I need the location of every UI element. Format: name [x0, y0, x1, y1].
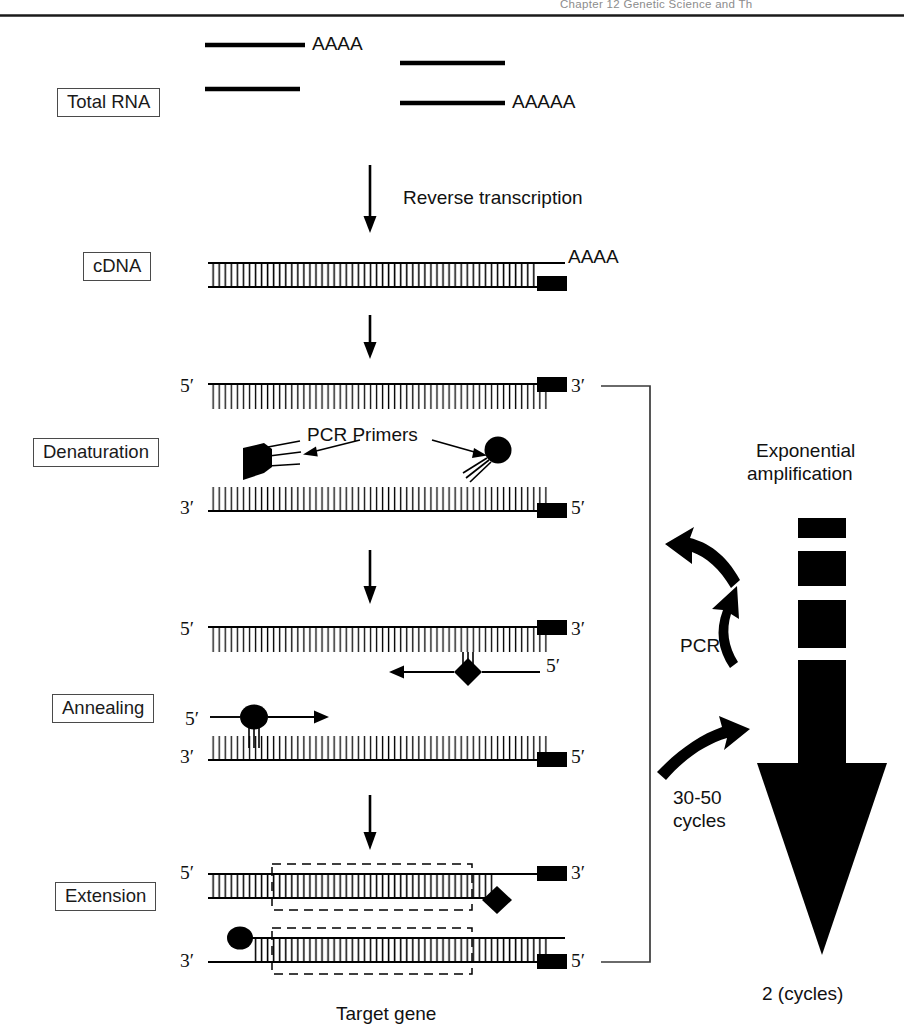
denaturation-bottom-block	[537, 503, 567, 518]
denaturation-top-block	[537, 377, 567, 392]
pcr-primer-pointer-left	[303, 440, 360, 457]
annealing-primer-diamond	[389, 652, 540, 686]
cdna-duplex	[208, 263, 567, 291]
rtpcr-figure: Chapter 12 Genetic Science and Th Total …	[0, 0, 904, 1033]
amplification-segment-2	[798, 551, 846, 586]
pcr-cycle-arrows	[657, 527, 750, 780]
extension-top-block	[537, 866, 567, 881]
extension-bottom-block	[537, 954, 567, 969]
primer-circle-icon	[463, 437, 512, 483]
pcr-arrow-lower	[657, 716, 750, 780]
pcr-arrow-upper	[665, 527, 740, 588]
arrow-annealing-to-extension	[364, 795, 377, 850]
annealing-top-block	[537, 620, 567, 635]
diagram-artwork	[0, 0, 904, 1033]
amplification-segment-3	[798, 600, 846, 648]
annealing-top-strand	[208, 620, 567, 652]
arrow-cdna-to-denaturation	[364, 315, 377, 359]
denaturation-top-strand	[208, 377, 567, 409]
extension-top-duplex	[208, 864, 567, 914]
extension-circle-primer	[227, 927, 253, 950]
extension-bottom-duplex	[208, 927, 567, 975]
denaturation-bottom-strand	[208, 487, 567, 518]
pcr-primer-pointer-right	[432, 440, 487, 458]
cdna-rungs	[210, 264, 538, 286]
amplification-arrowhead	[757, 763, 887, 955]
arrow-reverse-transcription	[364, 165, 377, 233]
amplification-arrow	[757, 518, 887, 955]
amplification-segment-1	[798, 518, 846, 538]
amplification-shaft	[798, 660, 846, 764]
pcr-arrow-middle	[712, 586, 739, 668]
cycle-bracket	[601, 386, 650, 962]
annealing-bottom-strand	[208, 736, 567, 767]
total-rna-strands	[205, 45, 505, 103]
arrow-denaturation-to-annealing	[364, 550, 377, 604]
primer-cube-icon	[243, 441, 301, 480]
annealing-bottom-block	[537, 752, 567, 767]
cdna-primer-block	[537, 276, 567, 291]
